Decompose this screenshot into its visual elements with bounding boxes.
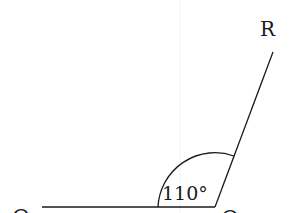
point-label-left: O bbox=[12, 205, 30, 213]
ray-to-r bbox=[215, 52, 273, 207]
point-label-vertex: Q bbox=[221, 206, 239, 213]
angle-diagram: 110° R O Q bbox=[0, 0, 291, 213]
angle-label: 110° bbox=[162, 182, 208, 204]
point-label-r: R bbox=[260, 17, 276, 41]
